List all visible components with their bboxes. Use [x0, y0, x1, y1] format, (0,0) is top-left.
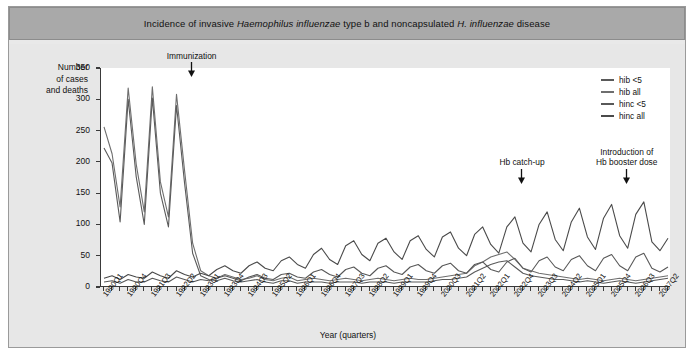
legend-item-hib-5[interactable]: hib <5 [601, 74, 646, 86]
legend: hib <5hib allhinc <5hinc all [601, 74, 646, 122]
series-line-hib-all [104, 87, 668, 281]
legend-item-hib-all[interactable]: hib all [601, 86, 646, 98]
y-tick-label: 0 [60, 281, 90, 291]
annotation-immunization: Immunization [132, 51, 252, 62]
x-tick-mark [264, 287, 265, 291]
x-tick-mark [458, 287, 459, 291]
y-tick-label: 300 [60, 93, 90, 103]
annotation-text: Immunization [132, 51, 252, 62]
annotation-arrow-down-icon [517, 169, 526, 184]
legend-swatch-icon [601, 91, 614, 93]
x-tick-mark [288, 287, 289, 291]
x-tick-mark [337, 287, 338, 291]
x-tick-mark [554, 287, 555, 291]
x-tick-mark [578, 287, 579, 291]
y-tick-label: 50 [60, 250, 90, 260]
legend-label: hib all [619, 87, 641, 97]
annotation-hb-catch-up: Hb catch-up [462, 157, 582, 168]
x-tick-mark [627, 287, 628, 291]
x-tick-mark [651, 287, 652, 291]
legend-swatch-icon [601, 79, 614, 81]
x-tick-mark [240, 287, 241, 291]
y-tick-label: 250 [60, 125, 90, 135]
title-part-3: disease [514, 18, 550, 29]
x-tick-mark [216, 287, 217, 291]
annotation-arrow-down-icon [622, 169, 631, 184]
x-tick-mark [385, 287, 386, 291]
y-axis-title-line-2: of cases [16, 74, 88, 86]
x-tick-mark [167, 287, 168, 291]
x-tick-mark [192, 287, 193, 291]
x-tick-mark [312, 287, 313, 291]
legend-label: hinc <5 [619, 99, 646, 109]
x-tick-mark [361, 287, 362, 291]
legend-swatch-icon [601, 115, 614, 117]
legend-item-hinc-all[interactable]: hinc all [601, 110, 646, 122]
legend-label: hinc all [619, 111, 645, 121]
y-tick-label: 350 [60, 62, 90, 72]
x-tick-mark [482, 287, 483, 291]
x-tick-mark [119, 287, 120, 291]
figure-root: Incidence of invasive Haemophilus influe… [0, 0, 696, 359]
legend-item-hinc-5[interactable]: hinc <5 [601, 98, 646, 110]
figure-title-bar: Incidence of invasive Haemophilus influe… [9, 7, 685, 40]
series-lines [101, 68, 671, 287]
x-axis-title: Year (quarters) [0, 330, 696, 340]
annotation-text: Introduction of [567, 147, 687, 158]
x-tick-mark [433, 287, 434, 291]
legend-swatch-icon [601, 103, 614, 105]
y-tick-label: 150 [60, 187, 90, 197]
y-tick-label: 200 [60, 156, 90, 166]
annotation-arrow-down-icon [187, 62, 196, 77]
annotation-hb-booster: Introduction ofHb booster dose [567, 147, 687, 168]
legend-label: hib <5 [619, 75, 642, 85]
x-tick-mark [530, 287, 531, 291]
y-tick-label: 100 [60, 218, 90, 228]
title-italic-1: Haemophilus influenzae [237, 18, 341, 29]
x-tick-mark [409, 287, 410, 291]
title-part-2: type b and noncapsulated [340, 18, 457, 29]
x-tick-mark [603, 287, 604, 291]
title-italic-2: H. influenzae [457, 18, 514, 29]
plot-area [100, 68, 670, 287]
series-line-hib-5 [104, 98, 668, 283]
x-tick-mark [506, 287, 507, 291]
x-tick-mark [143, 287, 144, 291]
annotation-text: Hb booster dose [567, 157, 687, 168]
annotation-text: Hb catch-up [462, 157, 582, 168]
page-title: Incidence of invasive Haemophilus influe… [144, 18, 550, 29]
title-part-1: Incidence of invasive [144, 18, 237, 29]
